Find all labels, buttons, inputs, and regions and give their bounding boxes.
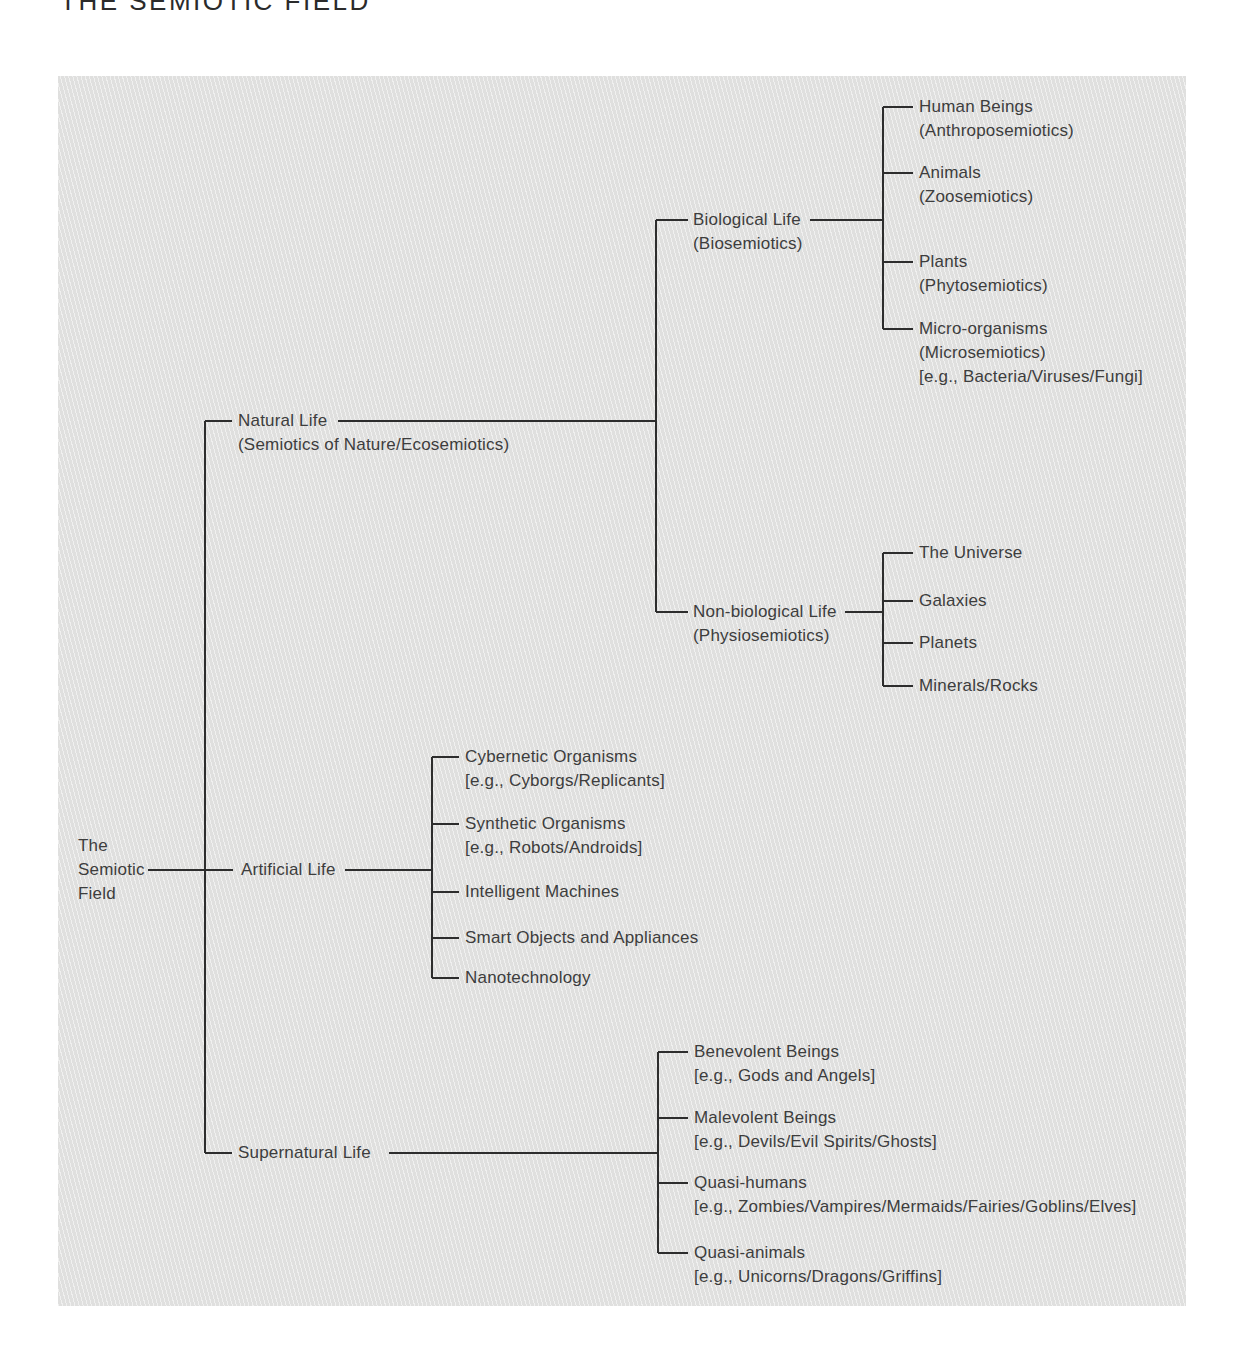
- node-human-beings: Human Beings (Anthroposemiotics): [919, 95, 1074, 143]
- node-artificial-life: Artificial Life: [241, 858, 336, 882]
- node-label: Biological Life: [693, 208, 803, 232]
- page-title: THE SEMIOTIC FIELD: [60, 0, 371, 17]
- node-example: [e.g., Unicorns/Dragons/Griffins]: [694, 1265, 942, 1289]
- node-malevolent-beings: Malevolent Beings [e.g., Devils/Evil Spi…: [694, 1106, 937, 1154]
- node-label: Galaxies: [919, 589, 987, 613]
- node-example: [e.g., Robots/Androids]: [465, 836, 643, 860]
- node-galaxies: Galaxies: [919, 589, 987, 613]
- node-subtitle: (Anthroposemiotics): [919, 119, 1074, 143]
- node-planets: Planets: [919, 631, 977, 655]
- node-example: [e.g., Gods and Angels]: [694, 1064, 875, 1088]
- node-micro-organisms: Micro-organisms (Microsemiotics) [e.g., …: [919, 317, 1143, 389]
- node-quasi-humans: Quasi-humans [e.g., Zombies/Vampires/Mer…: [694, 1171, 1136, 1219]
- node-supernatural-life: Supernatural Life: [238, 1141, 371, 1165]
- node-label: Synthetic Organisms: [465, 812, 643, 836]
- node-label: Animals: [919, 161, 1033, 185]
- node-label: Planets: [919, 631, 977, 655]
- node-animals: Animals (Zoosemiotics): [919, 161, 1033, 209]
- node-synthetic-organisms: Synthetic Organisms [e.g., Robots/Androi…: [465, 812, 643, 860]
- node-example: [e.g., Cyborgs/Replicants]: [465, 769, 665, 793]
- node-nanotechnology: Nanotechnology: [465, 966, 591, 990]
- node-label: Quasi-animals: [694, 1241, 942, 1265]
- node-subtitle: (Semiotics of Nature/Ecosemiotics): [238, 433, 509, 457]
- node-label: Artificial Life: [241, 858, 336, 882]
- node-label-line: Field: [78, 882, 145, 906]
- node-example: [e.g., Bacteria/Viruses/Fungi]: [919, 365, 1143, 389]
- node-label: Cybernetic Organisms: [465, 745, 665, 769]
- node-label: Nanotechnology: [465, 966, 591, 990]
- node-label: Malevolent Beings: [694, 1106, 937, 1130]
- node-intelligent-machines: Intelligent Machines: [465, 880, 619, 904]
- node-natural-life: Natural Life (Semiotics of Nature/Ecosem…: [238, 409, 509, 457]
- book-page: THE SEMIOTIC FIELD: [0, 0, 1243, 1368]
- node-non-biological-life: Non-biological Life (Physiosemiotics): [693, 600, 837, 648]
- node-subtitle: (Phytosemiotics): [919, 274, 1048, 298]
- node-label: Supernatural Life: [238, 1141, 371, 1165]
- node-label-line: Semiotic: [78, 858, 145, 882]
- node-subtitle: (Biosemiotics): [693, 232, 803, 256]
- node-label: Human Beings: [919, 95, 1074, 119]
- node-quasi-animals: Quasi-animals [e.g., Unicorns/Dragons/Gr…: [694, 1241, 942, 1289]
- node-root: The Semiotic Field: [78, 834, 145, 906]
- node-label: Benevolent Beings: [694, 1040, 875, 1064]
- node-cybernetic-organisms: Cybernetic Organisms [e.g., Cyborgs/Repl…: [465, 745, 665, 793]
- node-subtitle: (Zoosemiotics): [919, 185, 1033, 209]
- node-subtitle: (Microsemiotics): [919, 341, 1143, 365]
- node-label: Micro-organisms: [919, 317, 1143, 341]
- node-example: [e.g., Devils/Evil Spirits/Ghosts]: [694, 1130, 937, 1154]
- node-label: Natural Life: [238, 409, 509, 433]
- node-label: Non-biological Life: [693, 600, 837, 624]
- node-example: [e.g., Zombies/Vampires/Mermaids/Fairies…: [694, 1195, 1136, 1219]
- node-the-universe: The Universe: [919, 541, 1023, 565]
- node-label: Smart Objects and Appliances: [465, 926, 698, 950]
- node-label: Plants: [919, 250, 1048, 274]
- node-smart-objects-and-appliances: Smart Objects and Appliances: [465, 926, 698, 950]
- node-minerals-rocks: Minerals/Rocks: [919, 674, 1038, 698]
- node-label: The Universe: [919, 541, 1023, 565]
- node-label: Intelligent Machines: [465, 880, 619, 904]
- node-benevolent-beings: Benevolent Beings [e.g., Gods and Angels…: [694, 1040, 875, 1088]
- node-label: Quasi-humans: [694, 1171, 1136, 1195]
- node-plants: Plants (Phytosemiotics): [919, 250, 1048, 298]
- node-biological-life: Biological Life (Biosemiotics): [693, 208, 803, 256]
- node-label: Minerals/Rocks: [919, 674, 1038, 698]
- node-label-line: The: [78, 834, 145, 858]
- node-subtitle: (Physiosemiotics): [693, 624, 837, 648]
